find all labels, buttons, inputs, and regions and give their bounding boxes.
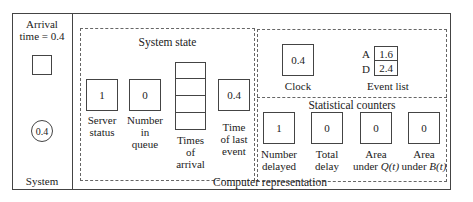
area-under-b-variable: B(t) [429,160,446,172]
times-of-arrival-label-line3: arrival [170,158,211,170]
event-time-value: 2.4 [374,61,398,76]
statistical-counters-box [257,97,447,98]
area-under-q-box: 0 [360,112,392,144]
arrival-time-cell [175,96,206,113]
time-of-last-event-label-line3: event [213,145,255,157]
number-delayed-label-line1: Number [259,148,299,160]
arrival-time-cell [175,79,206,96]
area-under-q-prefix: under [353,160,381,172]
number-in-queue-label-line3: queue [123,138,167,150]
total-delay-value: 0 [324,122,330,134]
time-of-last-event-box: 0.4 [218,79,250,111]
area-under-b-label-line1: Area [399,148,449,160]
server-status-box: 1 [86,79,118,111]
event-list-row: A 1.6 [362,46,398,61]
arriving-customer-square [32,55,52,75]
arrival-label-line1: Arrival [12,18,72,30]
statistical-counters-title: Statistical counters [257,99,447,111]
system-label: System [12,175,72,187]
server-status-value: 1 [99,89,105,101]
time-of-last-event-label-line2: of last [213,133,255,145]
number-in-queue-label-line1: Number [123,114,167,126]
area-under-q-label: Area under Q(t) [351,148,401,172]
event-key: A [362,48,374,60]
server-status-label: Server status [82,114,122,138]
area-under-q-label-line1: Area [351,148,401,160]
number-in-queue-value: 0 [142,89,148,101]
system-divider [72,13,73,190]
area-under-b-box: 0 [408,112,440,144]
customer-in-service-circle: 0.4 [31,120,53,142]
server-status-label-line2: status [82,126,122,138]
system-state-title: System state [80,36,255,48]
clock-box: 0.4 [282,44,314,76]
number-delayed-label: Number delayed [259,148,299,172]
area-under-b-label: Area under B(t) [399,148,449,172]
number-in-queue-label: Number in queue [123,114,167,150]
arrival-label: Arrival time = 0.4 [12,18,72,42]
event-list-row: D 2.4 [362,61,398,76]
arrival-label-line2: time = 0.4 [12,30,72,42]
times-of-arrival-label-line1: Times [170,134,211,146]
arrival-time-cell [175,62,206,79]
customer-in-service-value: 0.4 [36,126,49,137]
number-delayed-box: 1 [263,112,295,144]
server-status-label-line1: Server [82,114,122,126]
clock-value: 0.4 [291,54,305,66]
area-under-q-label-line2: under Q(t) [351,160,401,172]
event-time-value: 1.6 [374,46,398,61]
total-delay-box: 0 [311,112,343,144]
area-under-b-value: 0 [421,122,427,134]
event-list-label: Event list [358,80,418,92]
total-delay-label-line2: delay [307,160,347,172]
number-in-queue-box: 0 [129,79,161,111]
times-of-arrival-stack [175,62,206,130]
event-key: D [362,63,374,75]
area-under-b-prefix: under [402,160,430,172]
clock-label: Clock [278,80,318,92]
total-delay-label-line1: Total [307,148,347,160]
number-delayed-label-line2: delayed [259,160,299,172]
number-delayed-value: 1 [276,122,282,134]
arrival-time-cell [175,113,206,130]
times-of-arrival-label: Times of arrival [170,134,211,170]
computer-representation-label: Computer representation [200,176,340,188]
time-of-last-event-label-line1: Time [213,121,255,133]
total-delay-label: Total delay [307,148,347,172]
area-under-q-value: 0 [373,122,379,134]
area-under-q-variable: Q(t) [381,160,399,172]
area-under-b-label-line2: under B(t) [399,160,449,172]
time-of-last-event-label: Time of last event [213,121,255,157]
number-in-queue-label-line2: in [123,126,167,138]
time-of-last-event-value: 0.4 [227,89,241,101]
event-list: A 1.6 D 2.4 [362,46,398,76]
times-of-arrival-label-line2: of [170,146,211,158]
